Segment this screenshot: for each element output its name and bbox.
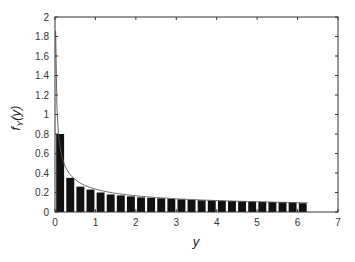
histogram-bar [218,201,226,212]
y-tick-label: 1 [43,109,49,120]
x-tick-label: 5 [254,217,260,228]
histogram-bar [167,199,175,212]
y-tick-label: 0.6 [35,148,49,159]
histogram-bar [289,202,297,212]
histogram-bar [188,200,196,212]
y-tick-label: 2 [43,12,49,23]
histogram-bar [299,203,307,212]
histogram-bar [76,187,84,212]
y-tick-label: 1.4 [35,70,49,81]
histogram-bar [137,197,145,212]
histogram-bar [97,193,105,213]
y-tick-label: 1.8 [35,31,49,42]
svg-text:fY(y): fY(y) [8,106,25,131]
histogram-bar [248,202,256,212]
histogram-bar [177,199,185,212]
histogram-bar [208,200,216,212]
density-curve [56,31,308,203]
histogram-bar [279,202,287,212]
histogram-bar [268,202,276,212]
histogram-bar [127,196,135,212]
x-axis-label: y [192,234,201,249]
histogram-chart: 0123456700.20.40.60.811.21.41.61.82 y fY… [0,0,355,262]
histogram-bar [66,178,74,212]
histogram-bar [198,200,206,212]
histogram-bar [147,198,155,212]
x-tick-label: 2 [133,217,139,228]
y-axis-label: fY(y) [8,106,25,131]
histogram-bar [258,202,266,212]
x-tick-label: 6 [295,217,301,228]
histogram-bar [107,194,115,212]
histogram-bar [157,198,165,212]
y-tick-label: 0 [43,207,49,218]
y-tick-label: 1.6 [35,51,49,62]
y-tick-label: 1.2 [35,90,49,101]
y-tick-label: 0.8 [35,129,49,140]
x-tick-label: 1 [93,217,99,228]
plot-area: 0123456700.20.40.60.811.21.41.61.82 [35,12,341,229]
y-tick-label: 0.4 [35,168,49,179]
plot-frame [55,17,338,212]
x-tick-label: 4 [214,217,220,228]
x-tick-label: 7 [335,217,341,228]
y-tick-label: 0.2 [35,187,49,198]
x-tick-label: 3 [174,217,180,228]
histogram-bar [228,201,236,212]
histogram-bar [117,195,125,212]
histogram-bar [238,201,246,212]
histogram-bar [87,190,95,212]
x-tick-label: 0 [52,217,58,228]
